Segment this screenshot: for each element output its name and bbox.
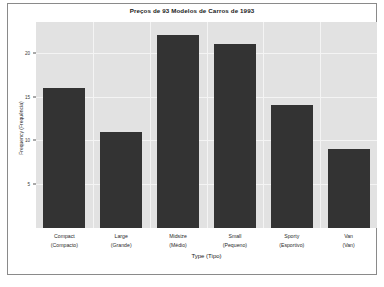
x-axis-tick-label-pt: (Compacto) (36, 241, 93, 250)
x-axis-tick-label: Small(Pequeno) (207, 232, 264, 249)
x-axis-tick-label: Compact(Compacto) (36, 232, 93, 249)
bar (328, 149, 370, 228)
x-axis-tick-label-pt: (Esportivo) (263, 241, 320, 250)
y-axis-tick-mark (33, 52, 36, 53)
figure-frame: Preços de 93 Modelos de Carros de 1993 5… (7, 3, 377, 275)
y-axis-title: Frequency (Frequência) (18, 83, 24, 173)
y-axis-tick-mark (33, 184, 36, 185)
bar (271, 105, 313, 228)
y-axis-tick-mark (33, 140, 36, 141)
x-axis-tick-label-pt: (Grande) (93, 241, 150, 250)
gridline-vertical (207, 22, 208, 228)
y-axis-tick-mark (33, 96, 36, 97)
x-axis-tick-label-en: Compact (54, 233, 75, 239)
x-axis-title: Type (Tipo) (36, 253, 377, 259)
gridline-vertical (93, 22, 94, 228)
bar (100, 132, 142, 228)
x-axis-tick-label-pt: (Van) (320, 241, 377, 250)
x-axis-tick-label-en: Small (228, 233, 241, 239)
x-axis-tick-label-en: Large (115, 233, 128, 239)
x-axis-tick-label-en: Van (344, 233, 353, 239)
x-axis-tick-label: Sporty(Esportivo) (263, 232, 320, 249)
x-axis-tick-label: Van(Van) (320, 232, 377, 249)
x-axis-tick-label-pt: (Médio) (150, 241, 207, 250)
gridline-vertical (150, 22, 151, 228)
bar (43, 88, 85, 228)
y-axis-tick-label: 5 (16, 182, 30, 187)
gridline-vertical (263, 22, 264, 228)
gridline-vertical (320, 22, 321, 228)
chart-title: Preços de 93 Modelos de Carros de 1993 (8, 7, 376, 14)
y-axis-tick-label: 20 (16, 50, 30, 55)
plot-panel (36, 22, 377, 228)
chart-screenshot: Preços de 93 Modelos de Carros de 1993 5… (0, 0, 384, 287)
bar (214, 44, 256, 228)
bar (157, 35, 199, 228)
x-axis-tick-label-en: Sporty (284, 233, 299, 239)
x-axis-tick-label: Midsize(Médio) (150, 232, 207, 249)
x-axis-tick-label-en: Midsize (169, 233, 187, 239)
x-axis-tick-label-pt: (Pequeno) (207, 241, 264, 250)
x-axis-tick-label: Large(Grande) (93, 232, 150, 249)
